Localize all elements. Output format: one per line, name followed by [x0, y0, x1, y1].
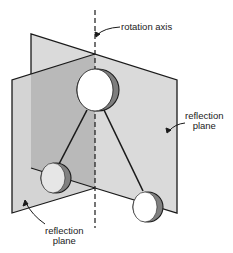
reflection-plane-right-line2: plane: [185, 121, 224, 131]
terminal-atom-right: [133, 192, 163, 222]
terminal-atom-left: [41, 163, 71, 193]
central-atom: [77, 69, 119, 111]
reflection-plane-left-label: reflection plane: [45, 226, 84, 246]
reflection-plane-right-label: reflection plane: [185, 111, 224, 131]
rotation-axis-label: rotation axis: [121, 22, 172, 32]
reflection-plane-left-line2: plane: [45, 236, 84, 246]
